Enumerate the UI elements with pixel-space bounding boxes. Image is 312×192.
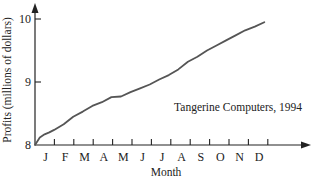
x-tick-label: J: [140, 150, 145, 164]
series-annotation: Tangerine Computers, 1994: [174, 101, 302, 114]
profit-line: [35, 22, 264, 145]
x-tick-label: S: [198, 150, 205, 164]
x-axis-arrow-icon: [301, 142, 311, 149]
y-tick-label: 8: [25, 138, 31, 152]
x-tick-label: D: [255, 150, 264, 164]
x-tick-label: M: [118, 150, 129, 164]
x-tick-label: N: [235, 150, 244, 164]
x-tick-label: O: [216, 150, 225, 164]
x-tick-label: J: [43, 150, 48, 164]
line-chart: 8910 JFMAMJJASOND Tangerine Computers, 1…: [0, 0, 312, 192]
y-tick-label: 9: [25, 75, 31, 89]
y-ticks: 8910: [19, 12, 41, 152]
x-ticks: JFMAMJJASOND: [43, 139, 267, 164]
x-tick-label: A: [100, 150, 109, 164]
x-tick-label: J: [160, 150, 165, 164]
x-axis-label: Month: [151, 166, 182, 178]
x-tick-label: A: [177, 150, 186, 164]
y-tick-label: 10: [19, 12, 31, 26]
x-tick-label: M: [79, 150, 90, 164]
x-tick-label: F: [62, 150, 69, 164]
y-axis-label: Profits (millions of dollars): [1, 17, 14, 143]
axes: [32, 3, 312, 149]
y-axis-arrow-icon: [32, 3, 39, 13]
